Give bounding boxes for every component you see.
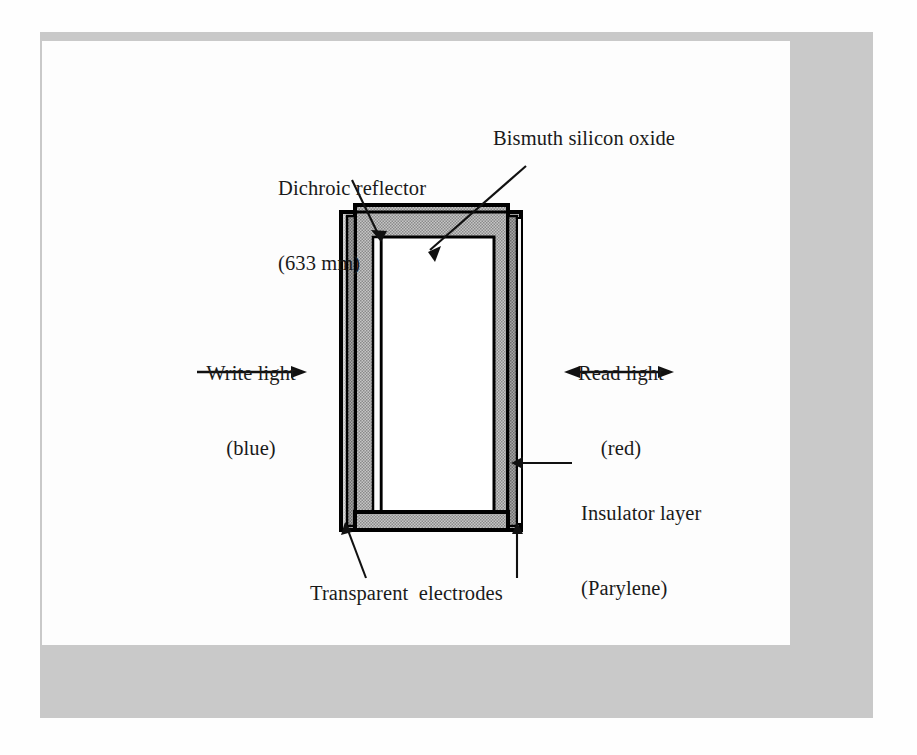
insulator-layer-film [517,218,522,524]
transparent-electrode-left-leader [346,525,366,578]
transparent-electrode-right [508,216,517,526]
label-insulator-layer-line1: Insulator layer [581,501,701,526]
figure-page: Dichroic reflector (633 mm) Bismuth sili… [0,0,917,755]
label-transparent-electrodes: Transparent electrodes [310,581,503,606]
bottom-closure [355,512,508,530]
label-write-light: Write light (blue) [186,311,316,511]
label-insulator-layer-line2: (Parylene) [581,576,701,601]
label-write-light-line2: (blue) [186,436,316,461]
label-bismuth-silicon-oxide: Bismuth silicon oxide [493,126,675,151]
label-read-light-line1: Read light [556,361,686,386]
diagram-canvas [0,0,917,755]
label-dichroic-reflector-line2: (633 mm) [278,251,426,276]
label-insulator-layer: Insulator layer (Parylene) [581,451,701,651]
label-dichroic-reflector-line1: Dichroic reflector [278,176,426,201]
label-dichroic-reflector: Dichroic reflector (633 mm) [278,126,426,326]
label-write-light-line1: Write light [186,361,316,386]
